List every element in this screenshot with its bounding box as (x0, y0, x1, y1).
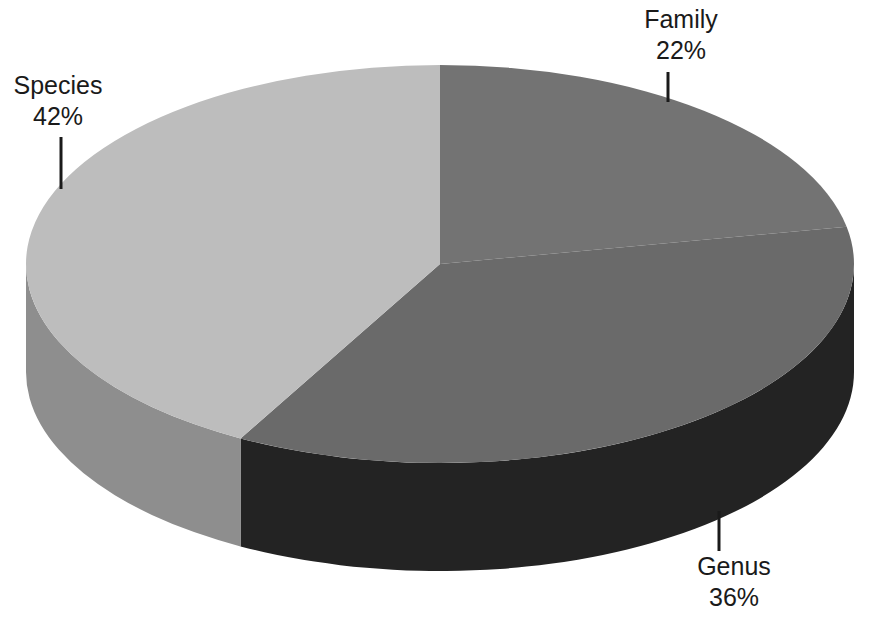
slice-label-genus: Genus 36% (697, 551, 771, 613)
slice-name-family: Family (644, 4, 718, 35)
slice-name-species: Species (14, 70, 103, 101)
slice-percent-family: 22% (644, 35, 718, 66)
chart-canvas: Family 22% Species 42% Genus 36% (0, 0, 870, 628)
slice-label-species: Species 42% (14, 70, 103, 132)
slice-percent-species: 42% (14, 101, 103, 132)
slice-label-family: Family 22% (644, 4, 718, 66)
pie-3d-chart (0, 0, 870, 628)
slice-name-genus: Genus (697, 551, 771, 582)
slice-percent-genus: 36% (697, 582, 771, 613)
